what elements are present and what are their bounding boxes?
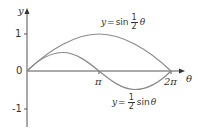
eq2-func: sin [137, 98, 150, 107]
equation-label-sin-half-theta: y = sin 1 2 θ [101, 14, 145, 31]
eq1-func: sin [116, 18, 129, 27]
y-tick-label-minus-1: -1 [12, 104, 22, 114]
y-tick-label-0: 0 [16, 66, 22, 76]
eq2-var: θ [151, 98, 156, 107]
eq1-fraction: 1 2 [131, 14, 138, 31]
eq1-var: θ [140, 18, 145, 27]
x-axis-arrow-icon [179, 69, 185, 74]
equation-label-half-sin-theta: y = 1 2 sin θ [112, 94, 156, 111]
eq2-equals: = [118, 98, 126, 107]
eq1-equals: = [107, 18, 115, 27]
x-tick-label-2pi: 2π [164, 77, 177, 87]
eq2-denominator: 2 [129, 103, 134, 111]
x-tick-label-pi: π [95, 77, 102, 87]
eq2-fraction: 1 2 [128, 94, 135, 111]
curve-sin-half-theta [27, 34, 171, 71]
x-axis-label: θ [186, 74, 192, 84]
eq2-lhs: y [112, 98, 117, 107]
graph-canvas [0, 0, 198, 130]
eq1-denominator: 2 [132, 23, 137, 31]
y-axis-arrow-icon [25, 8, 30, 14]
y-axis-label: y [18, 6, 24, 16]
eq1-lhs: y [101, 18, 106, 27]
y-tick-label-1: 1 [15, 29, 21, 39]
